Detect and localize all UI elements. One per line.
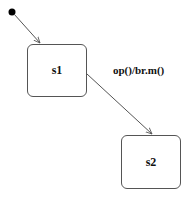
transition-s1-s2-arrow bbox=[87, 74, 152, 134]
initial-transition-arrow bbox=[14, 14, 40, 43]
state-s1-label: s1 bbox=[52, 63, 63, 78]
state-s2[interactable]: s2 bbox=[121, 135, 181, 189]
state-s2-label: s2 bbox=[146, 155, 157, 170]
transition-s1-s2-label: op()/br.m() bbox=[113, 64, 164, 76]
state-s1[interactable]: s1 bbox=[27, 44, 87, 97]
state-diagram: s1 s2 op()/br.m() bbox=[0, 0, 192, 202]
